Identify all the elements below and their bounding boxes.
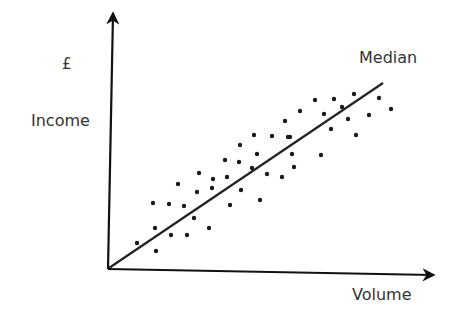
data-point [265,172,269,176]
data-point [195,190,199,194]
data-point [210,186,214,190]
x-axis-label: Volume [352,285,412,304]
data-point [185,233,189,237]
data-point [352,92,356,96]
data-point [332,97,336,101]
data-point [167,202,171,206]
data-point [211,177,215,181]
data-point [377,96,381,100]
data-point [252,133,256,137]
y-axis [108,14,113,269]
median-label: Median [359,48,417,67]
data-point [319,153,323,157]
data-point [223,158,227,162]
data-point [290,152,294,156]
data-point [225,175,229,179]
data-point [288,135,292,139]
data-point [238,143,242,147]
data-points [135,92,393,253]
data-point [258,198,262,202]
data-point [354,133,358,137]
data-point [367,113,371,117]
data-point [298,109,302,113]
data-point [329,127,333,131]
data-point [322,112,326,116]
data-point [207,226,211,230]
data-point [169,233,173,237]
currency-label: £ [62,55,72,73]
data-point [389,107,393,111]
data-point [237,160,241,164]
y-axis-label: Income [31,111,90,130]
data-point [192,216,196,220]
data-point [280,175,284,179]
data-point [135,241,139,245]
data-point [292,165,296,169]
data-point [283,119,287,123]
scatter-chart [0,0,459,309]
data-point [151,201,155,205]
data-point [346,117,350,121]
data-point [313,98,317,102]
data-point [255,152,259,156]
data-point [228,203,232,207]
x-axis [108,269,433,275]
data-point [197,171,201,175]
data-point [270,134,274,138]
median-trend-line [109,83,383,268]
data-point [182,204,186,208]
data-point [176,182,180,186]
data-point [154,249,158,253]
data-point [153,226,157,230]
data-point [239,188,243,192]
